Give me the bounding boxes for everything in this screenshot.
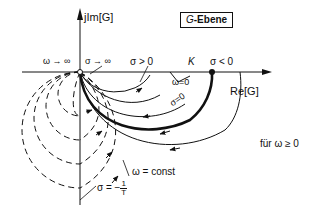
sigma-T-prefix: σ = − bbox=[97, 182, 120, 193]
sigma-inf-label: σ → ∞ bbox=[85, 56, 111, 67]
K-label: K bbox=[188, 56, 195, 67]
real-axis-label: Re[G] bbox=[230, 86, 259, 97]
condition-label: für ω ≥ 0 bbox=[260, 138, 299, 149]
plane-title-var: G bbox=[186, 14, 194, 25]
sigma-T-fraction: 1T bbox=[120, 180, 126, 197]
plane-title-box: G-Ebene bbox=[180, 12, 233, 28]
sigma-T-label: σ = −1T bbox=[97, 180, 127, 197]
plane-title-suffix: -Ebene bbox=[194, 14, 227, 25]
omega-inf-label: ω → ∞ bbox=[43, 56, 70, 67]
imag-axis-arrow-icon bbox=[77, 8, 83, 20]
sigma-positive-label: σ > 0 bbox=[130, 56, 153, 67]
imag-axis-label: jIm[G] bbox=[84, 12, 113, 23]
point-K bbox=[209, 69, 215, 75]
sigma-T-den: T bbox=[120, 189, 126, 197]
omega-const-label: ω = const bbox=[132, 166, 175, 177]
origin-point bbox=[78, 70, 83, 75]
real-axis-arrow-icon bbox=[262, 69, 272, 75]
sigma-negative-label: σ < 0 bbox=[210, 56, 233, 67]
g-plane-diagram bbox=[0, 0, 320, 216]
omega-zero-label: ω=0 bbox=[172, 77, 189, 88]
